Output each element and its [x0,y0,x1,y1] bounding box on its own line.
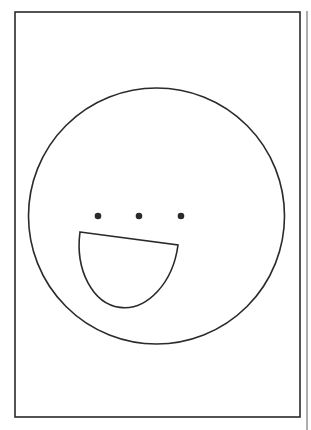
frame-border [15,12,300,417]
mouth-shape [79,232,178,308]
eyes-group [95,213,185,220]
face-circle [29,88,285,344]
eye-dot [95,213,102,220]
smiley-drawing [0,0,311,430]
eye-dot [178,213,185,220]
eye-dot [136,213,143,220]
